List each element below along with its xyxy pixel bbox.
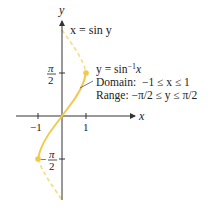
annotation-domain: Domain: −1 ≤ x ≤ 1	[96, 76, 190, 88]
y-tick-label-neg-pi-num: π	[49, 148, 55, 160]
arcsin-graph: x y −1 1 π 2 − π 2 x = sin y y = sin−1x …	[0, 0, 219, 210]
curve-label-text: x = sin y	[70, 23, 112, 37]
y-tick-label-neg-pi-den: 2	[49, 160, 55, 172]
y-axis-label: y	[58, 3, 65, 17]
x-tick-label-1: 1	[83, 121, 89, 133]
graph-canvas: x y −1 1 π 2 − π 2 x = sin y y = sin−1x …	[0, 0, 219, 210]
endpoint-upper	[83, 70, 89, 76]
x-tick-label-neg1: −1	[30, 121, 42, 133]
annotation-equation: y = sin−1x	[96, 62, 142, 76]
annotation-eq-sup: −1	[127, 62, 136, 71]
annotation-range: Range: −π/2 ≤ y ≤ π/2	[96, 89, 198, 102]
y-tick-label-pi-num: π	[48, 62, 54, 74]
y-tick-label-pi-den: 2	[48, 74, 54, 86]
y-tick-label-neg-sign: −	[40, 153, 46, 165]
annotation-eq-var: x	[135, 63, 142, 75]
x-axis-label: x	[138, 109, 145, 123]
annotation-eq-lhs: y = sin	[96, 63, 128, 76]
curve-label-x-sin-y: x = sin y	[70, 23, 112, 37]
